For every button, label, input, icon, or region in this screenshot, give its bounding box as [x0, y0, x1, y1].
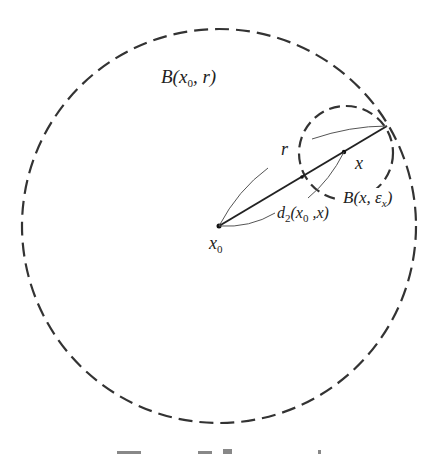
radius-brace-lower	[219, 168, 268, 226]
intersection-point	[300, 175, 304, 179]
distance-brace-upper	[308, 152, 344, 198]
center-label: x0	[208, 233, 223, 255]
caption-cropped	[117, 449, 321, 454]
radius-label: r	[281, 139, 289, 159]
small-ball-boundary	[299, 106, 393, 200]
metric-ball-diagram: B(x0, r) r x B(x, εx) d2(x0 ,x) x0	[0, 0, 433, 454]
distance-brace-lower	[219, 213, 275, 226]
distance-label: d2(x0 ,x)	[277, 204, 329, 224]
big-ball-label: B(x0, r)	[161, 66, 216, 89]
point-x-label: x	[354, 153, 363, 173]
